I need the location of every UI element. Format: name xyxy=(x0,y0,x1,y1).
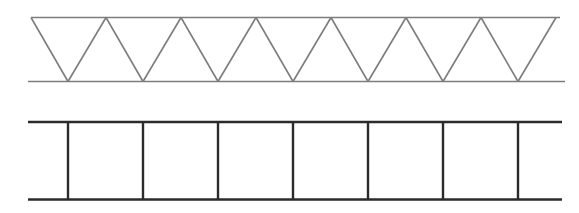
warren-diagonal-descending-3 xyxy=(181,18,218,82)
vierendeel-truss-diagram xyxy=(28,122,562,200)
truss-diagram-svg xyxy=(0,0,579,213)
warren-diagonal-descending-1 xyxy=(31,18,68,82)
warren-diagonal-ascending-7 xyxy=(518,18,556,82)
warren-diagonal-descending-4 xyxy=(256,18,293,82)
truss-diagram-canvas xyxy=(0,0,579,213)
warren-diagonal-descending-5 xyxy=(331,18,368,82)
warren-diagonal-descending-7 xyxy=(481,18,518,82)
warren-diagonal-ascending-1 xyxy=(68,18,106,82)
warren-diagonal-descending-6 xyxy=(406,18,443,82)
warren-diagonal-ascending-6 xyxy=(443,18,481,82)
warren-diagonal-ascending-2 xyxy=(143,18,181,82)
warren-diagonal-ascending-5 xyxy=(368,18,406,82)
warren-diagonal-ascending-3 xyxy=(218,18,256,82)
warren-diagonal-ascending-4 xyxy=(293,18,331,82)
warren-diagonal-descending-2 xyxy=(106,18,143,82)
warren-truss-diagram xyxy=(28,18,565,82)
